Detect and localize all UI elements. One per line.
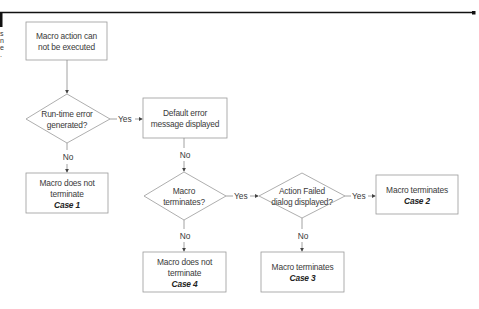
case2-tag: Case 2 bbox=[381, 195, 453, 206]
default-error-line-1: Default error bbox=[148, 107, 222, 118]
case4-tag: Case 4 bbox=[148, 278, 221, 289]
case4-label: Macro does not terminate Case 4 bbox=[148, 256, 221, 289]
edge-label-default-no: No bbox=[180, 150, 191, 160]
edge-label-d3-yes: Yes bbox=[352, 191, 366, 201]
macro-terminates-q-line-1: Macro bbox=[151, 185, 216, 196]
runtime-error-line-1: Run-time error bbox=[34, 108, 99, 119]
edge-label-d1-no: No bbox=[63, 152, 74, 162]
case3-label: Macro terminates Case 3 bbox=[266, 261, 339, 283]
action-failed-line-2: dialog displayed? bbox=[266, 196, 338, 207]
case1-tag: Case 1 bbox=[31, 199, 103, 210]
case2-line-1: Macro terminates bbox=[381, 184, 453, 195]
action-failed-line-1: Action Failed bbox=[266, 185, 338, 196]
case4-line-1: Macro does not bbox=[148, 256, 221, 267]
case4-line-2: terminate bbox=[148, 267, 221, 278]
start-line-1: Macro action can bbox=[31, 30, 102, 41]
case1-label: Macro does not terminate Case 1 bbox=[31, 177, 103, 210]
action-failed-label: Action Failed dialog displayed? bbox=[266, 185, 338, 207]
macro-terminates-q-line-2: terminates? bbox=[151, 196, 216, 207]
case1-line-2: terminate bbox=[31, 188, 103, 199]
flowchart-canvas: sne. Macro action can not be executed Ru… bbox=[0, 0, 479, 309]
start-line-2: not be executed bbox=[31, 41, 102, 52]
runtime-error-label: Run-time error generated? bbox=[34, 108, 99, 130]
default-error-line-2: message displayed bbox=[148, 118, 222, 129]
top-rule-end bbox=[472, 11, 476, 15]
clipped-margin-text: sne. bbox=[0, 30, 4, 58]
case2-label: Macro terminates Case 2 bbox=[381, 184, 453, 206]
edge-label-d2-no: No bbox=[180, 231, 191, 241]
left-bar bbox=[0, 12, 3, 27]
edge-label-d2-yes: Yes bbox=[234, 191, 248, 201]
runtime-error-line-2: generated? bbox=[34, 119, 99, 130]
case1-line-1: Macro does not bbox=[31, 177, 103, 188]
macro-terminates-q-label: Macro terminates? bbox=[151, 185, 216, 207]
edge-label-d1-yes: Yes bbox=[118, 114, 132, 124]
edge-label-d3-no: No bbox=[298, 231, 309, 241]
default-error-label: Default error message displayed bbox=[148, 107, 222, 129]
case3-line-1: Macro terminates bbox=[266, 261, 339, 272]
case3-tag: Case 3 bbox=[266, 272, 339, 283]
start-label: Macro action can not be executed bbox=[31, 30, 102, 52]
